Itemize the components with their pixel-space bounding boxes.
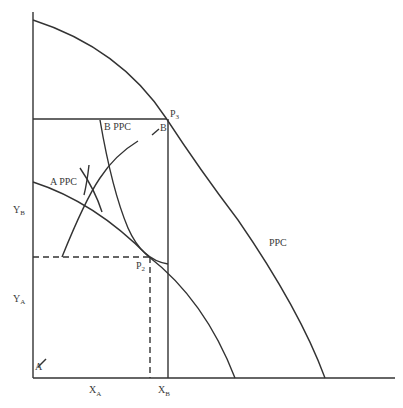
xa-label: XA (89, 384, 101, 398)
origin-b-arrow-icon (152, 129, 159, 135)
diagram-canvas: PPC A PPC B PPC P3 P2 B A YB YA XA XB (0, 0, 403, 408)
yb-label: YB (13, 204, 25, 217)
a-ppc-curve (33, 182, 235, 378)
ya-label: YA (13, 293, 25, 306)
p3-label: P3 (170, 108, 180, 121)
origin-b-label: B (160, 122, 167, 133)
ppc-label: PPC (269, 237, 287, 248)
ppc-diagram: PPC A PPC B PPC P3 P2 B A YB YA XA XB (0, 0, 403, 408)
p2-label: P2 (136, 260, 146, 273)
xb-label: XB (158, 384, 170, 398)
ppc-curve (33, 20, 325, 378)
b-ppc-label: B PPC (104, 121, 131, 132)
a-ppc-label: A PPC (50, 176, 77, 187)
origin-a-label: A (35, 361, 43, 372)
